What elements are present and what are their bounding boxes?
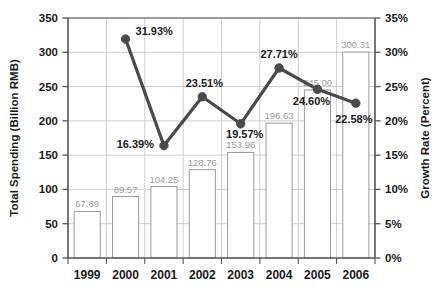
y2-axis-title: Growth Rate (Percent) (419, 77, 431, 199)
bar-2004 (266, 123, 292, 258)
right-tick-label: 25% (385, 81, 408, 93)
bar-label-1999: 67.89 (75, 198, 99, 209)
line-label-2006: 22.58% (335, 113, 373, 125)
left-tick-label: 200 (39, 115, 58, 127)
bar-label-2004: 196.63 (265, 110, 294, 121)
bar-2002 (189, 170, 215, 258)
right-tick-label: 30% (385, 46, 408, 58)
category-label-1999: 1999 (74, 268, 101, 282)
right-tick-label: 5% (385, 218, 402, 230)
bar-label-2003: 153.96 (226, 139, 255, 150)
line-marker-2002 (198, 93, 206, 101)
left-tick-label: 150 (39, 149, 58, 161)
line-label-2000: 31.93% (136, 25, 174, 37)
line-marker-2006 (352, 99, 360, 107)
left-tick-label: 250 (39, 81, 58, 93)
right-tick-label: 20% (385, 115, 408, 127)
left-tick-label: 50 (45, 218, 58, 230)
bar-label-2002: 128.76 (188, 157, 217, 168)
line-marker-2003 (236, 120, 244, 128)
bar-2001 (151, 187, 177, 258)
chart-canvas: 67.8989.57104.25128.76153.96196.63245.00… (0, 0, 445, 297)
line-label-2005: 24.60% (293, 95, 331, 107)
y-axis-title: Total Spending (Billion RMB) (8, 59, 20, 217)
left-tick-label: 100 (39, 183, 58, 195)
line-label-2004: 27.71% (260, 48, 298, 60)
category-label-2001: 2001 (151, 268, 178, 282)
category-label-2003: 2003 (227, 268, 254, 282)
bar-label-2000: 89.57 (114, 184, 138, 195)
bar-label-2001: 104.25 (149, 174, 178, 185)
left-tick-label: 0 (52, 252, 58, 264)
category-label-2000: 2000 (112, 268, 139, 282)
line-marker-2004 (275, 64, 283, 72)
bar-2003 (228, 152, 254, 258)
chart-background (0, 0, 445, 297)
bar-1999 (74, 211, 100, 258)
left-tick-label: 300 (39, 46, 58, 58)
category-label-2002: 2002 (189, 268, 216, 282)
growth-spending-chart: 67.8989.57104.25128.76153.96196.63245.00… (0, 0, 445, 297)
line-marker-2000 (121, 35, 129, 43)
bar-2000 (113, 197, 139, 258)
right-tick-label: 35% (385, 12, 408, 24)
line-marker-2005 (313, 85, 321, 93)
right-tick-label: 0% (385, 252, 402, 264)
bar-2006 (343, 52, 369, 258)
category-label-2006: 2006 (342, 268, 369, 282)
right-tick-label: 10% (385, 183, 408, 195)
line-label-2003: 19.57% (226, 128, 264, 140)
line-marker-2001 (160, 141, 168, 149)
bar-label-2006: 300.31 (341, 39, 370, 50)
right-tick-label: 15% (385, 149, 408, 161)
left-tick-label: 350 (39, 12, 58, 24)
line-label-2002: 23.51% (186, 77, 224, 89)
bar-2005 (304, 90, 330, 258)
line-label-2001: 16.39% (117, 138, 155, 150)
category-label-2004: 2004 (266, 268, 293, 282)
category-label-2005: 2005 (304, 268, 331, 282)
